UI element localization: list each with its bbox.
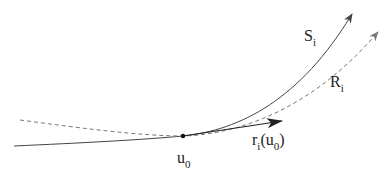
point-u0 bbox=[181, 134, 185, 138]
label-u0: u0 bbox=[177, 150, 191, 166]
label-r-i-base: R bbox=[330, 73, 341, 90]
diagram-figure: Si Ri u0 ri(u0) bbox=[0, 0, 385, 172]
curve-r-i bbox=[20, 32, 378, 136]
label-tangent-arg-sub: 0 bbox=[274, 140, 280, 152]
label-tangent-arg-close: ) bbox=[279, 131, 284, 148]
label-tangent-sub: i bbox=[257, 140, 260, 152]
label-tangent-arg-open: (u bbox=[260, 131, 273, 148]
label-r-i: Ri bbox=[330, 74, 344, 90]
label-s-i: Si bbox=[304, 28, 316, 44]
label-r-i-sub: i bbox=[341, 82, 344, 94]
label-s-i-base: S bbox=[304, 27, 313, 44]
diagram-canvas bbox=[0, 0, 385, 172]
label-s-i-sub: i bbox=[313, 36, 316, 48]
label-u0-sub: 0 bbox=[185, 158, 191, 170]
label-tangent: ri(u0) bbox=[252, 132, 285, 148]
label-u0-base: u bbox=[177, 149, 185, 166]
